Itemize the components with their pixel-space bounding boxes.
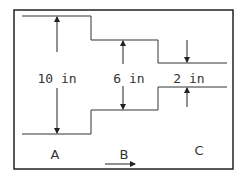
dimension-b-label: 6 in: [113, 71, 144, 86]
dimension-c-label: 2 in: [173, 71, 204, 86]
section-c-label: C: [194, 143, 203, 158]
dimension-a: 10 in: [37, 17, 76, 133]
pipe-top-wall: [22, 16, 227, 63]
pipe-diagram: 10 in 6 in 2 in A B C: [0, 0, 245, 177]
pipe-bottom-wall: [22, 87, 227, 134]
dimension-c: 2 in: [173, 40, 204, 107]
section-b-label: B: [120, 147, 129, 162]
section-a-label: A: [51, 147, 60, 162]
dimension-b: 6 in: [113, 41, 144, 109]
dimension-a-label: 10 in: [37, 71, 76, 86]
